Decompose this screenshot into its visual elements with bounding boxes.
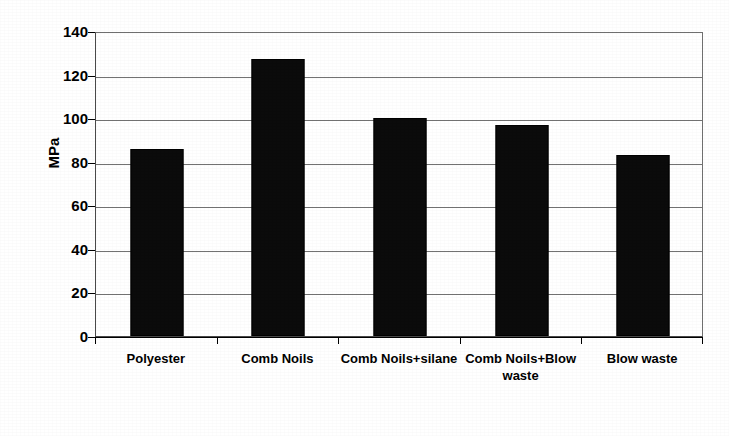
bar-band: [582, 33, 704, 336]
bar: [252, 59, 305, 336]
bar: [373, 118, 426, 336]
x-tick-mark: [702, 337, 703, 344]
x-axis-category-labels: PolyesterComb NoilsComb Noils+silaneComb…: [95, 350, 703, 420]
y-tick-mark: [88, 206, 95, 207]
x-category-label: Polyester: [95, 350, 217, 367]
y-tick-mark: [88, 119, 95, 120]
x-tick-mark: [338, 337, 339, 344]
y-tick-mark: [88, 250, 95, 251]
bar: [130, 149, 183, 336]
bar-band: [218, 33, 340, 336]
y-tick-mark: [88, 337, 95, 338]
x-tick-mark: [460, 337, 461, 344]
y-tick-mark: [88, 76, 95, 77]
bar-band: [96, 33, 218, 336]
y-tick-mark: [88, 293, 95, 294]
x-category-label: Comb Noils+silane: [338, 350, 460, 367]
y-tick-mark: [88, 32, 95, 33]
x-category-label: Comb Noils: [217, 350, 339, 367]
bar-chart-figure: MPa 020406080100120140 PolyesterComb Noi…: [0, 0, 729, 436]
bar-band: [461, 33, 583, 336]
x-axis-tick-marks: [95, 337, 703, 345]
x-tick-mark: [95, 337, 96, 344]
x-tick-mark: [581, 337, 582, 344]
bar: [617, 155, 670, 336]
bar-band: [339, 33, 461, 336]
y-tick-mark: [88, 163, 95, 164]
y-axis-tick-marks: [0, 0, 95, 436]
plot-area: [95, 32, 703, 337]
plot-inner: [96, 33, 702, 336]
x-tick-mark: [217, 337, 218, 344]
x-category-label: Blow waste: [581, 350, 703, 367]
bar: [495, 125, 548, 336]
x-category-label: Comb Noils+Blow waste: [460, 350, 582, 384]
